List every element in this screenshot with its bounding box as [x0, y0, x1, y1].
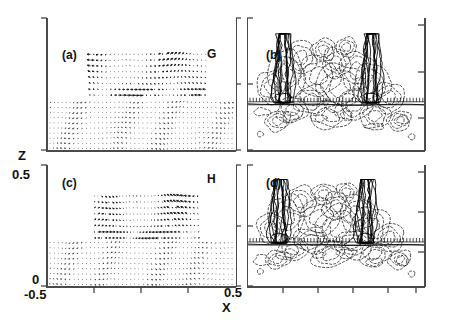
panel-a-vector-field — [47, 18, 236, 150]
panel-d-tag: (d) — [266, 176, 281, 190]
case-label-h: H — [207, 172, 216, 186]
panel-d-left-spine — [247, 165, 248, 287]
panel-b-contour-plot — [248, 18, 424, 150]
panel-a-left-spine — [46, 18, 48, 151]
panel-b — [248, 18, 424, 150]
x-tick--0.5: -0.5 — [24, 287, 46, 302]
z-tick-0.5: 0.5 — [12, 167, 30, 182]
panel-b-tag: (b) — [266, 48, 281, 62]
panel-c-bottom-spine — [46, 286, 236, 288]
panel-c-tag: (c) — [62, 176, 77, 190]
panel-b-bottom-spine — [247, 150, 425, 152]
panel-c-left-spine — [46, 165, 48, 287]
panel-d-right-spine — [424, 165, 426, 287]
x-axis-label: X — [222, 300, 231, 315]
figure-canvas: (a) G (b) (c) H (d) — [0, 0, 452, 322]
panel-b-right-spine — [424, 18, 426, 151]
panel-a — [47, 18, 236, 150]
z-tick-0: 0 — [32, 272, 39, 287]
case-label-g: G — [207, 47, 216, 61]
panel-b-left-spine — [247, 18, 248, 151]
panel-d-bottom-spine — [247, 286, 425, 288]
z-axis-label: Z — [18, 148, 26, 163]
panel-a-tag: (a) — [62, 48, 77, 62]
panel-a-right-spine — [236, 18, 237, 151]
panel-a-bottom-spine — [46, 150, 236, 152]
panel-c-right-spine — [236, 165, 237, 287]
x-tick-0.5: 0.5 — [224, 285, 242, 300]
